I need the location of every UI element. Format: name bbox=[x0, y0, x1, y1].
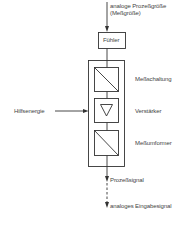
process-signal-arrow bbox=[105, 167, 109, 183]
converter-diagonal-icon bbox=[95, 131, 119, 156]
block-label-measuring-circuit: Meßschaltung bbox=[135, 76, 172, 83]
converter-diagonal-icon bbox=[95, 68, 119, 92]
input-arrow bbox=[105, 2, 109, 32]
block-label-transducer: Meßumformer bbox=[135, 140, 172, 147]
block-label-amplifier: Verstärker bbox=[135, 108, 161, 115]
aux-power-label: Hilfsenergie bbox=[14, 108, 44, 115]
aux-power-arrow bbox=[55, 109, 89, 113]
input-label-line1: analoge Prozeßgröße bbox=[110, 3, 166, 10]
transmitter-outer-box bbox=[89, 61, 125, 167]
sensor-label: Fühler bbox=[103, 37, 119, 44]
transducer-block bbox=[95, 131, 119, 156]
amplifier-block bbox=[95, 99, 119, 123]
input-signal-dashed-arrow bbox=[105, 183, 109, 208]
analog-input-signal-label: analoges Eingabesignal bbox=[110, 203, 172, 210]
measuring-circuit-block bbox=[95, 68, 119, 92]
amplifier-triangle-icon bbox=[101, 105, 113, 117]
input-label-line2: (Meßgröße) bbox=[110, 10, 141, 17]
process-signal-label: Prozeßsignal bbox=[110, 177, 144, 184]
